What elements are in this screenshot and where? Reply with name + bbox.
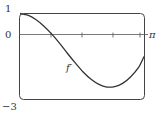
plot-frame [20, 14, 145, 100]
chart: 1 0 −3 π f′ [0, 0, 161, 121]
y-label-bottom: −3 [2, 101, 17, 112]
curve-label: f′ [65, 62, 73, 73]
x-ticks [51, 33, 140, 38]
f-prime-curve [20, 14, 144, 88]
y-label-zero: 0 [5, 29, 11, 40]
y-label-top: 1 [5, 3, 11, 14]
x-label-pi: π [148, 29, 156, 40]
